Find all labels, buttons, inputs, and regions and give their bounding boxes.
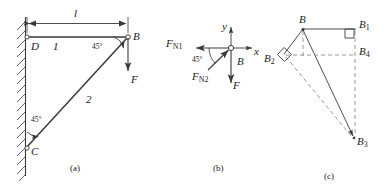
bar-2-line bbox=[26, 38, 127, 148]
figure-container: l D 1 45° B F 2 45° C (a) y x FN1 45° FN… bbox=[0, 0, 388, 192]
label-node-b2: B2 bbox=[264, 53, 275, 66]
label-axis-x: x bbox=[254, 46, 259, 57]
label-node-b3-main: B bbox=[357, 135, 364, 147]
label-node-b4-subscript: 4 bbox=[366, 50, 370, 59]
label-force-fn2-main: F bbox=[192, 70, 199, 82]
right-angle-marker-b1 bbox=[345, 29, 354, 38]
dashed-b2-to-b3 bbox=[286, 57, 352, 137]
label-node-b1-subscript: 1 bbox=[366, 23, 370, 32]
label-bar-1: 1 bbox=[53, 41, 59, 52]
pin-joint-c bbox=[25, 146, 29, 150]
label-node-b-c: B bbox=[299, 14, 306, 25]
force-arrow-fn2 bbox=[208, 50, 229, 70]
label-node-b2-main: B bbox=[264, 52, 271, 64]
label-force-fn1-main: F bbox=[166, 37, 173, 49]
label-node-b4: B4 bbox=[359, 46, 370, 59]
panel-c-drawing bbox=[278, 28, 357, 139]
label-load-f-b: F bbox=[233, 80, 240, 91]
caption-panel-c: (c) bbox=[324, 172, 334, 181]
label-angle-c-a: 45° bbox=[31, 116, 42, 124]
angle-arc-b-panel bbox=[209, 48, 215, 64]
label-force-fn2: FN2 bbox=[192, 71, 208, 84]
label-force-fn1: FN1 bbox=[166, 38, 182, 51]
arrow-b-to-b3 bbox=[303, 30, 353, 136]
right-angle-marker-b2 bbox=[278, 48, 292, 62]
node-dot-b3 bbox=[353, 137, 356, 140]
pin-joint-d bbox=[25, 35, 29, 39]
caption-panel-a: (a) bbox=[70, 164, 80, 173]
label-node-b1: B1 bbox=[359, 19, 370, 32]
label-node-c: C bbox=[31, 146, 38, 157]
label-node-b4-main: B bbox=[359, 45, 366, 57]
label-node-b2-subscript: 2 bbox=[271, 57, 275, 66]
caption-panel-b: (b) bbox=[213, 164, 224, 173]
dimension-arrow-left bbox=[29, 21, 37, 27]
joint-node-b bbox=[228, 45, 233, 50]
label-angle-b: 45° bbox=[192, 56, 203, 64]
figure-drawing bbox=[0, 0, 388, 192]
label-node-d: D bbox=[31, 41, 39, 52]
label-angle-b-a: 45° bbox=[92, 43, 103, 51]
label-node-b-a: B bbox=[133, 31, 140, 42]
label-node-b-b: B bbox=[237, 56, 244, 67]
label-force-fn1-subscript: N1 bbox=[173, 42, 183, 51]
label-load-f-a: F bbox=[131, 74, 138, 85]
node-dot-b bbox=[302, 28, 305, 31]
wall-hatching bbox=[17, 22, 25, 181]
label-node-b3-subscript: 3 bbox=[364, 140, 368, 149]
label-node-b1-main: B bbox=[359, 18, 366, 30]
label-dimension-l: l bbox=[74, 8, 77, 19]
label-node-b3: B3 bbox=[357, 136, 368, 149]
label-bar-2: 2 bbox=[86, 94, 92, 105]
dimension-arrow-right bbox=[119, 21, 127, 27]
label-force-fn2-subscript: N2 bbox=[199, 75, 209, 84]
label-axis-y: y bbox=[222, 21, 227, 32]
